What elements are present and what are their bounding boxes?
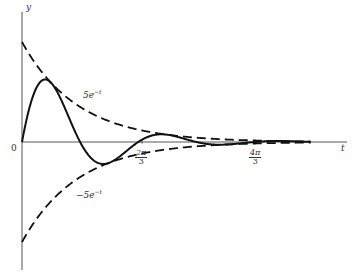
tick-label-4pi-3: 4π 3 <box>249 149 261 166</box>
tick-4pi-3-denominator: 3 <box>249 158 261 166</box>
lower-envelope-exponent: −t <box>95 188 102 195</box>
damped-oscillation-chart <box>0 0 355 276</box>
y-axis-label: y <box>26 2 31 12</box>
tick-label-2pi-3: 2π 3 <box>135 149 147 166</box>
upper-envelope-curve <box>22 42 311 141</box>
origin-label: 0 <box>11 143 17 153</box>
damped-sine-curve <box>22 79 311 164</box>
lower-envelope-curve <box>22 143 311 242</box>
upper-envelope-label: 5e−t <box>83 88 102 100</box>
upper-envelope-base: 5e <box>83 90 94 100</box>
lower-envelope-label: −5e−t <box>76 188 102 200</box>
tick-2pi-3-denominator: 3 <box>135 158 147 166</box>
upper-envelope-exponent: −t <box>94 88 101 95</box>
lower-envelope-base: −5e <box>76 190 95 200</box>
t-axis-label: t <box>341 143 345 153</box>
